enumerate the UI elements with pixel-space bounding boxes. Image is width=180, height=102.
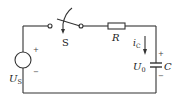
- voltage-source-icon: [15, 52, 31, 68]
- resistor-icon: [108, 23, 125, 29]
- current-label-sub: C: [136, 42, 141, 49]
- voltage-source: + − US: [9, 46, 39, 86]
- source-minus-sign: −: [33, 68, 39, 76]
- source-plus-sign: +: [33, 46, 39, 54]
- circuit-wires: [23, 26, 156, 93]
- capacitor-minus-sign: −: [158, 72, 164, 80]
- current-arrow-head-icon: [143, 49, 147, 55]
- switch-terminal-left-icon: [48, 24, 52, 28]
- capacitor-label: C: [164, 61, 172, 72]
- capacitor: + − C U0: [133, 50, 172, 80]
- capacitor-voltage-sub: 0: [141, 66, 145, 74]
- source-label-sub: S: [17, 78, 21, 86]
- source-label: US: [9, 73, 22, 86]
- capacitor-voltage-label: U0: [133, 61, 146, 74]
- current-indicator: iC: [133, 36, 147, 55]
- resistor-label: R: [111, 32, 120, 43]
- switch-lever-icon: [57, 19, 80, 26]
- switch-label: S: [62, 37, 69, 48]
- switch: S: [48, 8, 83, 48]
- capacitor-plus-sign: +: [158, 50, 164, 58]
- rc-circuit-diagram: + − US S R iC + − C U0: [0, 0, 180, 102]
- switch-arrow-head-icon: [61, 29, 65, 34]
- resistor: R: [108, 23, 125, 43]
- current-label: iC: [133, 38, 141, 49]
